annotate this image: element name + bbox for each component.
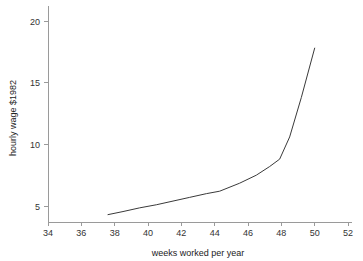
y-tick-label: 5 [35,202,40,212]
y-axis-title: hourly wage $1982 [8,80,18,156]
x-axis-ticks [48,222,348,226]
data-line-hourly-wage [108,48,315,215]
y-tick-label: 20 [30,17,40,27]
line-chart-canvas: 34363840424446485052 5101520 weeks worke… [0,0,363,261]
x-tick-label: 44 [210,228,220,238]
x-tick-label: 50 [310,228,320,238]
axes: 34363840424446485052 5101520 [30,6,353,238]
chart-figure: 34363840424446485052 5101520 weeks worke… [0,0,363,261]
x-axis-title: weeks worked per year [151,248,245,258]
x-axis-tick-labels: 34363840424446485052 [43,228,353,238]
x-tick-label: 42 [176,228,186,238]
x-tick-label: 36 [76,228,86,238]
x-tick-label: 48 [276,228,286,238]
y-tick-label: 15 [30,78,40,88]
x-tick-label: 52 [343,228,353,238]
y-tick-label: 10 [30,140,40,150]
y-axis-tick-labels: 5101520 [30,17,40,212]
x-tick-label: 34 [43,228,53,238]
data-series-group [108,48,315,215]
y-axis-ticks [44,21,48,206]
x-tick-label: 38 [110,228,120,238]
x-tick-label: 46 [243,228,253,238]
x-tick-label: 40 [143,228,153,238]
